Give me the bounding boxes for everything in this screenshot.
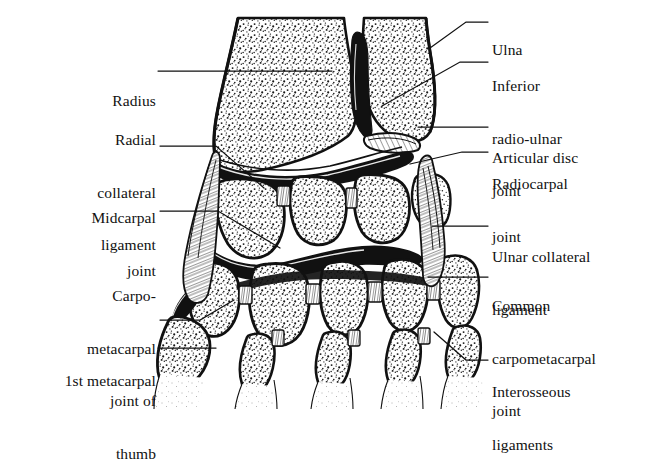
metacarpal-base-3 [311,332,353,410]
label-radial-collateral-ligament-line-1: Radial [34,131,156,149]
metacarpal-base-4 [381,330,423,410]
label-radiocarpal-joint-line-1: Radiocarpal [492,175,568,193]
carpal-scaphoid [216,179,285,258]
label-cmc-thumb-line-1: Carpo- [26,287,156,305]
label-interosseous-line-1: Interosseous [492,383,571,401]
metacarpal-base-2 [235,334,277,410]
label-first-metacarpal: 1st metacarpal [16,337,156,407]
ulnar-collateral-ligament [418,156,445,287]
radius-bone [214,18,357,172]
leader-ulna [430,22,488,48]
label-first-metacarpal-line-1: 1st metacarpal [16,372,156,390]
carpal-triquetral [354,175,410,243]
ulna-bone [363,18,435,141]
first-metacarpal [154,317,210,409]
label-midcarpal-joint-line-1: Midcarpal [34,209,156,227]
label-cmc-thumb-line-4: thumb [26,445,156,463]
label-interosseous-ligaments: Interosseous ligaments [492,348,571,463]
metacarpal-base-5 [441,326,482,410]
carpal-hamate [382,260,428,331]
carpal-lunate [290,177,347,245]
label-interosseous-line-2: ligaments [492,436,571,454]
label-iruj-line-1: Inferior [492,77,562,95]
label-common-cmc-line-1: Common [492,297,596,315]
